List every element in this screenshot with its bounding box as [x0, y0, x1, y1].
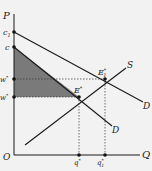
point-w1 — [12, 77, 16, 81]
q1-label: q*1 — [97, 158, 104, 168]
x-axis-label: Q — [142, 149, 150, 160]
supply-label: S — [127, 60, 133, 70]
point-q — [77, 153, 81, 157]
demand-upper-label: D — [142, 101, 150, 111]
E1-label: E*1 — [97, 67, 107, 78]
E-label: E* — [73, 85, 83, 95]
y-axis-label: P — [2, 10, 10, 21]
w-label: w* — [0, 93, 9, 102]
point-q1 — [103, 153, 107, 157]
c-label: c — [5, 43, 10, 52]
origin-label: O — [3, 152, 11, 162]
q-label: q* — [74, 158, 81, 167]
point-c1 — [12, 30, 16, 34]
w1-label: w* — [0, 75, 9, 84]
supply-demand-diagram: P Q O c1 c w* w* q* q*1 E* E*1 S D D — [0, 0, 152, 171]
demand-lower-label: D — [111, 125, 119, 135]
point-w — [12, 95, 16, 99]
point-c — [12, 45, 16, 49]
c1-label: c1 — [3, 28, 11, 38]
point-E — [77, 95, 81, 99]
